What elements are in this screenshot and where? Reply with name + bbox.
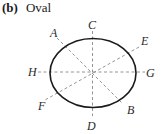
label-c: C [88,18,97,32]
axis-line-a-b [57,38,123,104]
label-a: A [49,26,58,40]
label-g: G [146,66,155,80]
oval-diagram: A C E H G F B D [0,0,164,134]
oval-shape [50,39,136,108]
label-d: D [86,119,96,133]
label-h: H [27,65,38,79]
label-b: B [127,103,135,117]
label-e: E [140,34,149,48]
label-f: F [37,99,46,113]
